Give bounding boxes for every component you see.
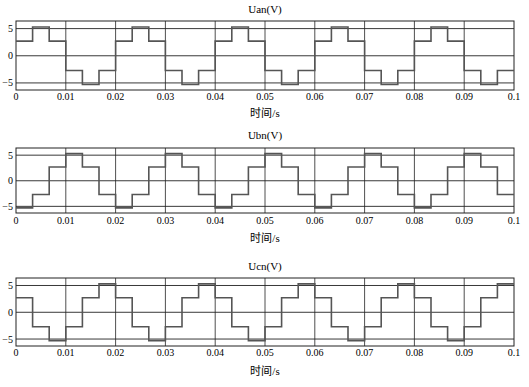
x-tick-label: 0.06	[306, 91, 324, 102]
x-tick-label: 0.07	[356, 347, 374, 358]
x-tick-label: 0.05	[256, 347, 274, 358]
x-axis-label: 时间/s	[250, 232, 279, 244]
x-tick-label: 0.09	[455, 347, 473, 358]
x-tick-label: 0.07	[356, 215, 374, 226]
x-tick-label: 0.05	[256, 91, 274, 102]
x-axis-label: 时间/s	[250, 107, 279, 119]
panel-uanv: Uan(V)00.010.020.030.040.050.060.070.080…	[2, 3, 520, 119]
x-tick-label: 0.03	[157, 91, 175, 102]
x-tick-label: 0.09	[455, 91, 473, 102]
x-tick-label: 0.06	[306, 215, 324, 226]
panel-title: Ubn(V)	[248, 129, 283, 142]
x-tick-label: 0	[14, 215, 19, 226]
x-tick-label: 0.03	[157, 215, 175, 226]
y-tick-label: 5	[8, 23, 13, 34]
x-tick-label: 0.03	[157, 347, 175, 358]
x-tick-label: 0.05	[256, 215, 274, 226]
x-tick-label: 0.09	[455, 215, 473, 226]
x-tick-label: 0	[14, 91, 19, 102]
x-tick-label: 0.01	[57, 347, 75, 358]
x-tick-label: 0	[14, 347, 19, 358]
x-tick-label: 0.08	[406, 347, 424, 358]
y-tick-label: 0	[8, 175, 13, 186]
x-axis-label: 时间/s	[250, 365, 279, 377]
x-tick-label: 0.07	[356, 91, 374, 102]
x-tick-label: 0.06	[306, 347, 324, 358]
x-tick-label: 0.1	[508, 91, 521, 102]
x-tick-label: 0.1	[508, 347, 521, 358]
x-tick-label: 0.02	[107, 215, 125, 226]
x-tick-label: 0.04	[206, 91, 224, 102]
x-tick-label: 0.02	[107, 347, 125, 358]
x-tick-label: 0.04	[206, 347, 224, 358]
y-tick-label: 0	[8, 50, 13, 61]
x-tick-label: 0.08	[406, 91, 424, 102]
panel-ubnv: Ubn(V)00.010.020.030.040.050.060.070.080…	[2, 129, 520, 244]
x-tick-label: 0.02	[107, 91, 125, 102]
y-tick-label: 5	[8, 280, 13, 291]
y-tick-label: 5	[8, 150, 13, 161]
three-phase-voltage-chart: Uan(V)00.010.020.030.040.050.060.070.080…	[0, 0, 529, 387]
y-tick-label: −5	[2, 334, 13, 345]
x-tick-label: 0.1	[508, 215, 521, 226]
panel-title: Uan(V)	[248, 3, 282, 16]
x-tick-label: 0.01	[57, 215, 75, 226]
x-tick-label: 0.08	[406, 215, 424, 226]
panel-ucnv: Ucn(V)00.010.020.030.040.050.060.070.080…	[2, 260, 520, 377]
x-tick-label: 0.01	[57, 91, 75, 102]
y-tick-label: −5	[2, 201, 13, 212]
y-tick-label: −5	[2, 77, 13, 88]
panel-title: Ucn(V)	[248, 260, 282, 273]
y-tick-label: 0	[8, 307, 13, 318]
x-tick-label: 0.04	[206, 215, 224, 226]
